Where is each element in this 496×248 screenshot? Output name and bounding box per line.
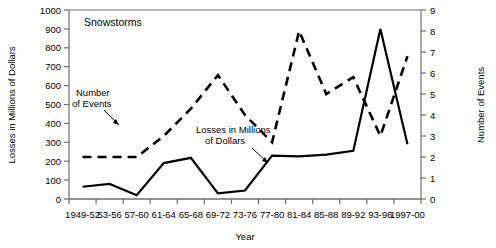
x-tick-label: 85-88 xyxy=(314,209,338,220)
right-axis-title: Number of Events xyxy=(475,67,486,143)
right-tick-label: 4 xyxy=(430,110,435,121)
right-tick-label: 1 xyxy=(430,173,435,184)
x-axis-title: Year xyxy=(235,231,254,242)
left-tick-label: 800 xyxy=(45,42,61,53)
losses-annotation-line1: Losses in Millions xyxy=(196,124,271,135)
right-tick-label: 3 xyxy=(430,131,435,142)
x-tick-label: 81-84 xyxy=(287,209,311,220)
left-tick-label: 0 xyxy=(56,194,61,205)
left-tick-label: 200 xyxy=(45,156,61,167)
right-tick-label: 7 xyxy=(430,47,435,58)
x-tick-label: 93-96 xyxy=(368,209,392,220)
left-tick-label: 900 xyxy=(45,24,61,35)
left-tick-label: 600 xyxy=(45,80,61,91)
left-tick-label: 300 xyxy=(45,137,61,148)
left-tick-label: 500 xyxy=(45,99,61,110)
left-tick-label: 100 xyxy=(45,175,61,186)
right-tick-label: 2 xyxy=(430,152,435,163)
x-tick-label: 89-92 xyxy=(341,209,365,220)
losses-annotation-line2: of Dollars xyxy=(205,135,245,146)
x-tick-label: 1997-00 xyxy=(390,209,425,220)
x-tick-label: 61-64 xyxy=(152,209,176,220)
left-tick-label: 1000 xyxy=(40,5,61,16)
number-of-events-annotation-line1: Number xyxy=(76,87,110,98)
chart-figure: 01002003004005006007008009001000 0123456… xyxy=(0,0,496,248)
left-axis-title: Losses in Millions of Dollars xyxy=(6,46,17,163)
plot-title: Snowstorms xyxy=(84,16,142,28)
x-tick-label: 77-80 xyxy=(260,209,284,220)
left-tick-label: 400 xyxy=(45,118,61,129)
x-tick-label: 73-76 xyxy=(233,209,257,220)
right-tick-label: 9 xyxy=(430,5,435,16)
x-tick-label: 69-72 xyxy=(206,209,230,220)
x-tick-label: 1949-52 xyxy=(65,209,100,220)
number-of-events-annotation-line2: of Events xyxy=(72,98,112,109)
x-tick-label: 65-68 xyxy=(179,209,203,220)
right-tick-label: 5 xyxy=(430,89,435,100)
right-tick-label: 0 xyxy=(430,194,435,205)
right-tick-label: 6 xyxy=(430,68,435,79)
right-tick-label: 8 xyxy=(430,26,435,37)
x-tick-label: 53-56 xyxy=(97,209,121,220)
x-tick-label: 57-60 xyxy=(125,209,149,220)
left-tick-label: 700 xyxy=(45,61,61,72)
snowstorms-line-chart: 01002003004005006007008009001000 0123456… xyxy=(0,0,496,248)
